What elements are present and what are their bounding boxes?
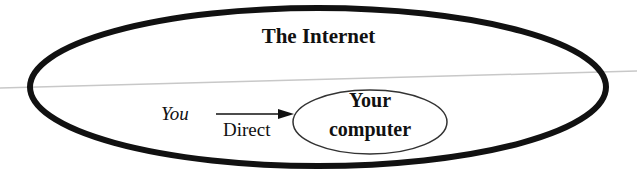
computer-label-line2: computer: [300, 119, 440, 139]
direct-arrow-head-icon: [278, 109, 294, 119]
background-scan-line: [0, 71, 637, 88]
direct-edge-label: Direct: [223, 120, 270, 139]
you-label: You: [161, 104, 189, 123]
computer-label-line1: Your: [300, 90, 440, 110]
internet-label: The Internet: [0, 26, 637, 47]
